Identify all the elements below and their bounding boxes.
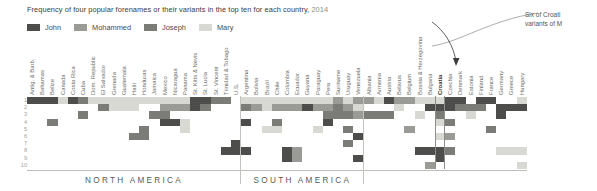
heatmap-cell[interactable] bbox=[88, 97, 98, 104]
heatmap-cell[interactable] bbox=[251, 97, 261, 104]
heatmap-cell[interactable] bbox=[170, 97, 180, 104]
heatmap-cell[interactable] bbox=[333, 97, 343, 104]
heatmap-cell[interactable] bbox=[272, 97, 282, 104]
heatmap-cell[interactable] bbox=[292, 104, 302, 111]
heatmap-cell[interactable] bbox=[262, 97, 272, 104]
heatmap-cell[interactable] bbox=[78, 97, 88, 104]
heatmap-cell[interactable] bbox=[200, 97, 210, 104]
heatmap-cell[interactable] bbox=[384, 111, 394, 118]
heatmap-cell[interactable] bbox=[119, 97, 129, 104]
heatmap-cell[interactable] bbox=[170, 119, 180, 126]
heatmap-cell[interactable] bbox=[180, 97, 190, 104]
heatmap-cell[interactable] bbox=[98, 97, 108, 104]
heatmap-cell[interactable] bbox=[415, 147, 425, 154]
heatmap-cell[interactable] bbox=[394, 97, 404, 104]
heatmap-cell[interactable] bbox=[282, 155, 292, 162]
heatmap-cell[interactable] bbox=[445, 133, 455, 140]
heatmap-cell[interactable] bbox=[139, 97, 149, 104]
heatmap-cell[interactable] bbox=[302, 97, 312, 104]
heatmap-cell[interactable] bbox=[58, 97, 68, 104]
heatmap-cell[interactable] bbox=[496, 111, 506, 118]
heatmap-cell[interactable] bbox=[200, 104, 210, 111]
heatmap-cell[interactable] bbox=[517, 104, 527, 111]
heatmap-cell[interactable] bbox=[241, 104, 251, 111]
heatmap-cell[interactable] bbox=[343, 126, 353, 133]
heatmap-cell[interactable] bbox=[180, 104, 190, 111]
legend-item-mohammed[interactable]: Mohammed bbox=[74, 23, 131, 32]
heatmap-cell[interactable] bbox=[323, 97, 333, 104]
heatmap-cell[interactable] bbox=[374, 97, 384, 104]
heatmap-cell[interactable] bbox=[364, 111, 374, 118]
heatmap-cell[interactable] bbox=[415, 111, 425, 118]
heatmap-cell[interactable] bbox=[517, 97, 527, 104]
heatmap-cell[interactable] bbox=[180, 119, 190, 126]
heatmap-cell[interactable] bbox=[292, 155, 302, 162]
heatmap-cell[interactable] bbox=[445, 147, 455, 154]
heatmap-cell[interactable] bbox=[129, 97, 139, 104]
heatmap-cell[interactable] bbox=[496, 104, 506, 111]
heatmap-cell[interactable] bbox=[506, 104, 516, 111]
heatmap-cell[interactable] bbox=[445, 104, 455, 111]
heatmap-cell[interactable] bbox=[211, 97, 221, 104]
heatmap-cell[interactable] bbox=[384, 97, 394, 104]
heatmap-cell[interactable] bbox=[323, 111, 333, 118]
heatmap-cell[interactable] bbox=[476, 104, 486, 111]
heatmap-cell[interactable] bbox=[404, 126, 414, 133]
heatmap-cell[interactable] bbox=[109, 104, 119, 111]
heatmap-cell[interactable] bbox=[517, 147, 527, 154]
heatmap-cell[interactable] bbox=[435, 147, 445, 154]
heatmap-cell[interactable] bbox=[47, 97, 57, 104]
heatmap-cell[interactable] bbox=[47, 119, 57, 126]
heatmap-cell[interactable] bbox=[455, 97, 465, 104]
heatmap-cell[interactable] bbox=[435, 104, 445, 111]
heatmap-cell[interactable] bbox=[435, 119, 445, 126]
heatmap-cell[interactable] bbox=[262, 104, 272, 111]
heatmap-cell[interactable] bbox=[160, 111, 170, 118]
heatmap-cell[interactable] bbox=[160, 97, 170, 104]
heatmap-cell[interactable] bbox=[129, 133, 139, 140]
heatmap-cell[interactable] bbox=[37, 97, 47, 104]
heatmap-cell[interactable] bbox=[476, 97, 486, 104]
heatmap-cell[interactable] bbox=[27, 97, 37, 104]
heatmap-cell[interactable] bbox=[343, 140, 353, 147]
heatmap-cell[interactable] bbox=[313, 126, 323, 133]
heatmap-cell[interactable] bbox=[323, 119, 333, 126]
heatmap-cell[interactable] bbox=[190, 97, 200, 104]
heatmap-cell[interactable] bbox=[343, 104, 353, 111]
heatmap-cell[interactable] bbox=[404, 97, 414, 104]
heatmap-cell[interactable] bbox=[272, 104, 282, 111]
heatmap-cell[interactable] bbox=[221, 147, 231, 154]
heatmap-cell[interactable] bbox=[282, 104, 292, 111]
heatmap-cell[interactable] bbox=[272, 126, 282, 133]
heatmap-cell[interactable] bbox=[455, 104, 465, 111]
heatmap-cell[interactable] bbox=[139, 126, 149, 133]
heatmap-cell[interactable] bbox=[98, 104, 108, 111]
heatmap-cell[interactable] bbox=[129, 104, 139, 111]
heatmap-cell[interactable] bbox=[149, 97, 159, 104]
heatmap-cell[interactable] bbox=[251, 104, 261, 111]
heatmap-cell[interactable] bbox=[262, 126, 272, 133]
heatmap-cell[interactable] bbox=[292, 97, 302, 104]
heatmap-cell[interactable] bbox=[221, 97, 231, 104]
heatmap-cell[interactable] bbox=[241, 147, 251, 154]
heatmap-cell[interactable] bbox=[435, 97, 445, 104]
heatmap-cell[interactable] bbox=[292, 147, 302, 154]
heatmap-cell[interactable] bbox=[323, 104, 333, 111]
heatmap-cell[interactable] bbox=[425, 147, 435, 154]
heatmap-cell[interactable] bbox=[78, 111, 88, 118]
heatmap-cell[interactable] bbox=[333, 104, 343, 111]
heatmap-cell[interactable] bbox=[466, 104, 476, 111]
heatmap-cell[interactable] bbox=[486, 126, 496, 133]
heatmap-cell[interactable] bbox=[517, 162, 527, 169]
heatmap-cell[interactable] bbox=[180, 126, 190, 133]
heatmap-cell[interactable] bbox=[506, 147, 516, 154]
heatmap-cell[interactable] bbox=[149, 111, 159, 118]
heatmap-cell[interactable] bbox=[241, 97, 251, 104]
legend-item-john[interactable]: John bbox=[27, 23, 61, 32]
heatmap-cell[interactable] bbox=[313, 97, 323, 104]
heatmap-cell[interactable] bbox=[282, 147, 292, 154]
heatmap-cell[interactable] bbox=[272, 119, 282, 126]
heatmap-cell[interactable] bbox=[160, 104, 170, 111]
heatmap-cell[interactable] bbox=[445, 97, 455, 104]
heatmap-cell[interactable] bbox=[119, 104, 129, 111]
